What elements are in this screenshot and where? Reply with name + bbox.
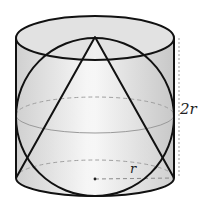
diagram-canvas: 2r r: [0, 0, 203, 209]
height-label: 2r: [180, 102, 197, 117]
base-center-dot: [94, 178, 97, 181]
geometry-figure: [0, 0, 203, 209]
radius-label: r: [130, 162, 136, 175]
